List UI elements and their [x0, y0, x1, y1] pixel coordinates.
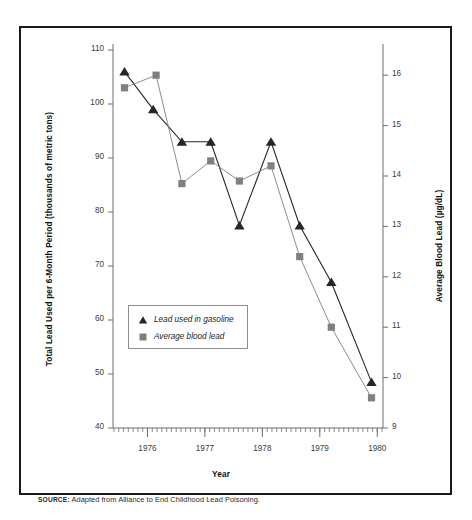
x-tick-label-1978: 1978 — [242, 444, 282, 453]
data-point — [296, 253, 303, 260]
figure-frame: Total Lead Used per 6-Month Period (thou… — [19, 26, 452, 495]
data-point — [328, 324, 335, 331]
y-tick-label-right-9: 9 — [392, 422, 416, 431]
y-tick-label-left-100: 100 — [80, 98, 104, 107]
legend-item-blood-lead: Average blood lead — [136, 328, 247, 345]
data-point — [234, 221, 244, 230]
data-point — [266, 137, 276, 146]
x-tick-label-1977: 1977 — [185, 444, 225, 453]
data-point — [119, 67, 129, 76]
data-point — [368, 394, 375, 401]
series-blood-lead — [121, 72, 375, 402]
data-point — [121, 84, 128, 91]
data-point — [236, 177, 243, 184]
data-point — [207, 157, 214, 164]
y-tick-label-right-12: 12 — [392, 271, 416, 280]
x-tick-label-1979: 1979 — [300, 444, 340, 453]
data-point — [267, 162, 274, 169]
y-axis-left-title: Total Lead Used per 6-Month Period (thou… — [44, 74, 54, 404]
triangle-marker-icon — [136, 315, 149, 325]
source-text: Adapted from Alliance to End Childhood L… — [72, 495, 260, 504]
y-tick-label-right-14: 14 — [392, 170, 416, 179]
y-tick-label-left-90: 90 — [80, 152, 104, 161]
legend-label-blood-lead: Average blood lead — [154, 332, 224, 341]
x-axis-title: Year — [21, 469, 421, 479]
x-tick-label-1980: 1980 — [357, 444, 397, 453]
y-tick-label-right-15: 15 — [392, 120, 416, 129]
data-point — [366, 378, 376, 387]
y-tick-label-left-70: 70 — [80, 260, 104, 269]
source-label: SOURCE: — [38, 496, 70, 503]
y-tick-label-left-60: 60 — [80, 314, 104, 323]
legend-item-gasoline: Lead used in gasoline — [136, 311, 247, 328]
legend-label-gasoline: Lead used in gasoline — [154, 315, 234, 324]
data-point — [148, 105, 158, 114]
data-point — [153, 72, 160, 79]
y-tick-label-left-40: 40 — [80, 422, 104, 431]
data-point — [326, 278, 336, 287]
y-tick-label-left-110: 110 — [80, 44, 104, 53]
data-point — [178, 180, 185, 187]
source-note: SOURCE: Adapted from Alliance to End Chi… — [38, 495, 260, 504]
y-tick-label-right-10: 10 — [392, 372, 416, 381]
chart-legend: Lead used in gasoline Average blood lead — [128, 305, 248, 349]
y-tick-label-left-80: 80 — [80, 206, 104, 215]
square-marker-icon — [136, 332, 149, 342]
y-axis-right-title: Average Blood Lead (µg/dL) — [434, 81, 444, 411]
series-line — [125, 75, 372, 398]
y-tick-label-right-11: 11 — [392, 321, 416, 330]
y-tick-label-left-50: 50 — [80, 368, 104, 377]
data-point — [295, 221, 305, 230]
chart-plot-area: Total Lead Used per 6-Month Period (thou… — [21, 28, 450, 493]
y-tick-label-right-13: 13 — [392, 220, 416, 229]
x-tick-label-1976: 1976 — [127, 444, 167, 453]
y-tick-label-right-16: 16 — [392, 69, 416, 78]
